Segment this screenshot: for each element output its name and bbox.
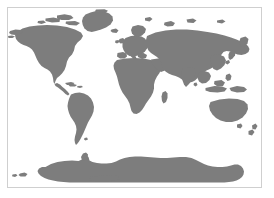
hispaniola-shape bbox=[77, 86, 83, 88]
north-america-shape bbox=[15, 25, 83, 84]
new-zealand-south-shape bbox=[249, 130, 255, 136]
arctic-islands-4 bbox=[38, 21, 47, 25]
severnaya-zemlya-shape bbox=[187, 19, 197, 24]
borneo-shape bbox=[214, 80, 225, 87]
new-guinea-shape bbox=[230, 86, 248, 93]
world-map-panel bbox=[8, 8, 261, 147]
antarctica-shape bbox=[38, 155, 245, 183]
antarctica-panel bbox=[8, 152, 261, 187]
japan-shape bbox=[229, 50, 236, 60]
antarctica-island-west bbox=[19, 173, 28, 177]
scandinavia-shape bbox=[131, 25, 146, 37]
antarctica-group bbox=[12, 153, 244, 183]
aleutian-islands bbox=[8, 36, 15, 39]
novaya-zemlya-shape bbox=[164, 21, 175, 27]
balkans-shape bbox=[138, 53, 148, 59]
arctic-islands-3 bbox=[66, 21, 81, 26]
iceland-shape bbox=[111, 29, 119, 34]
europe-shape bbox=[123, 36, 149, 57]
world-map-figure bbox=[0, 0, 274, 198]
ireland-shape bbox=[115, 40, 120, 44]
southeast-asia-shape bbox=[198, 71, 212, 84]
east-asia-coast-shape bbox=[211, 55, 227, 71]
south-america-shape bbox=[68, 93, 95, 146]
africa-shape bbox=[114, 58, 162, 114]
indonesia-shape bbox=[206, 86, 228, 93]
tasmania-shape bbox=[237, 124, 243, 129]
madagascar-shape bbox=[162, 91, 168, 104]
sri-lanka-shape bbox=[194, 83, 198, 87]
australia-shape bbox=[209, 99, 248, 123]
antarctica-svg bbox=[8, 152, 261, 187]
landmass-group bbox=[8, 9, 258, 145]
philippines-shape bbox=[226, 74, 232, 82]
falklands-shape bbox=[84, 138, 88, 141]
svalbard-shape bbox=[145, 17, 153, 22]
greenland-shape bbox=[82, 11, 113, 32]
world-map-svg bbox=[8, 8, 261, 147]
new-zealand-north-shape bbox=[252, 124, 258, 130]
antarctica-island-far-west bbox=[12, 174, 18, 177]
new-siberian-islands-shape bbox=[217, 20, 226, 24]
